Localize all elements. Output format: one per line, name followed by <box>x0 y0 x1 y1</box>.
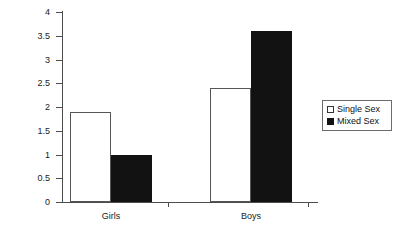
bar-boys-single-sex <box>210 88 251 202</box>
y-axis-tick <box>56 60 62 61</box>
legend-swatch-filled-square-icon <box>327 118 334 125</box>
y-axis-tick <box>56 83 62 84</box>
y-axis-tick-label: 2.5 <box>14 79 50 88</box>
y-axis-tick <box>56 131 62 132</box>
legend-item-single-sex: Single Sex <box>327 104 388 115</box>
bar-chart: 4 3.5 3 2.5 2 1.5 1 0.5 0 Girls Boys Sin… <box>0 0 408 234</box>
x-axis-tick <box>168 202 169 207</box>
bar-boys-mixed-sex <box>251 31 292 202</box>
chart-legend: Single Sex Mixed Sex <box>322 100 392 131</box>
legend-label-mixed-sex: Mixed Sex <box>337 117 379 126</box>
y-axis-tick-label: 0.5 <box>14 174 50 183</box>
y-axis-tick <box>56 202 62 203</box>
y-axis-tick <box>56 12 62 13</box>
bar-girls-mixed-sex <box>111 155 152 202</box>
legend-label-single-sex: Single Sex <box>337 105 380 114</box>
bar-girls-single-sex <box>70 112 111 202</box>
y-axis-tick-label: 3 <box>14 56 50 65</box>
y-axis-tick <box>56 178 62 179</box>
y-axis-tick <box>56 107 62 108</box>
y-axis-tick-label: 4 <box>14 8 50 17</box>
y-axis-tick-label: 3.5 <box>14 32 50 41</box>
y-axis-tick <box>56 36 62 37</box>
y-axis-tick-label: 0 <box>14 198 50 207</box>
legend-swatch-hollow-square-icon <box>327 106 334 113</box>
x-axis-line <box>62 202 318 203</box>
y-axis-tick-label: 1.5 <box>14 127 50 136</box>
legend-item-mixed-sex: Mixed Sex <box>327 116 388 127</box>
y-axis-line <box>62 11 63 203</box>
x-axis-tick <box>308 202 309 207</box>
x-axis-category-label-girls: Girls <box>71 211 151 221</box>
y-axis-tick <box>56 155 62 156</box>
y-axis-tick-label: 2 <box>14 103 50 112</box>
y-axis-tick-label: 1 <box>14 151 50 160</box>
x-axis-category-label-boys: Boys <box>211 211 291 221</box>
